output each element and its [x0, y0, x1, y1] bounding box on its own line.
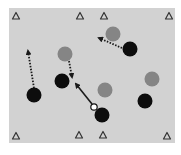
attacker-1: [123, 42, 138, 57]
attacker-3: [27, 88, 42, 103]
attacker-5: [95, 108, 110, 123]
drill-diagram: [0, 0, 181, 155]
attacker-4: [138, 94, 153, 109]
attacker-2: [55, 74, 70, 89]
defender-3: [145, 72, 160, 87]
defender-4: [98, 83, 113, 98]
defender-2: [58, 47, 73, 62]
ball-icon: [91, 104, 97, 110]
defender-1: [106, 27, 121, 42]
